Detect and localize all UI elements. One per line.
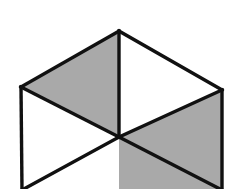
edge-left-vertical: [21, 87, 22, 189]
figure-canvas: Isometric cube line drawing with two sha…: [0, 0, 238, 189]
isometric-cube-drawing: [0, 0, 238, 189]
